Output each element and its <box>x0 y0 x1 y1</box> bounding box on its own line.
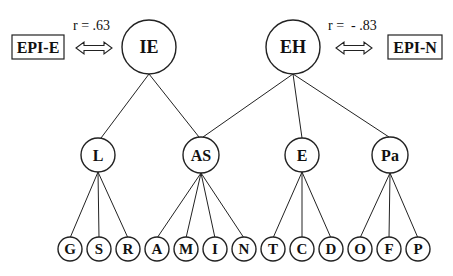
node-S: S <box>87 237 111 261</box>
edges-top-to-mid <box>101 74 389 138</box>
node-E-label: E <box>297 147 308 164</box>
edge-L-G <box>70 172 98 238</box>
correlation-eh-epi-n: r = - .83 <box>328 18 377 33</box>
edge-AS-N <box>201 173 244 238</box>
edge-EH-Pa <box>293 74 389 137</box>
epi-n-label: EPI-N <box>393 39 437 56</box>
edge-IE-AS <box>149 74 199 137</box>
node-R: R <box>116 237 140 261</box>
edge-L-S <box>98 172 99 238</box>
edge-EH-AS <box>203 74 293 137</box>
edge-E-D <box>302 172 331 238</box>
node-T: T <box>261 237 285 261</box>
node-I-label: I <box>212 241 218 257</box>
node-F: F <box>377 237 401 261</box>
double-arrow-icon <box>336 42 372 54</box>
edge-AS-A <box>157 173 201 238</box>
node-EH: EH <box>266 20 320 74</box>
node-A: A <box>145 237 169 261</box>
double-arrow-icon <box>76 42 112 54</box>
node-N: N <box>232 237 256 261</box>
edge-AS-M <box>186 173 201 238</box>
node-AS-label: AS <box>191 147 212 164</box>
edge-E-T <box>273 172 302 238</box>
node-M: M <box>174 237 198 261</box>
epi-e-label: EPI-E <box>17 39 60 56</box>
node-Pa-label: Pa <box>381 147 399 164</box>
node-G: G <box>58 237 82 261</box>
node-L: L <box>81 138 115 172</box>
node-C: C <box>290 237 314 261</box>
edge-EH-E <box>293 74 302 138</box>
node-R-label: R <box>123 241 134 257</box>
node-O: O <box>348 237 372 261</box>
node-O-label: O <box>354 241 366 257</box>
edge-L-R <box>98 172 128 238</box>
node-Pa: Pa <box>372 137 408 173</box>
correlation-ie-epi-e: r = .63 <box>73 18 110 33</box>
node-P: P <box>406 237 430 261</box>
node-L-label: L <box>93 147 104 164</box>
edge-Pa-F <box>389 173 390 238</box>
node-I: I <box>203 237 227 261</box>
edge-IE-L <box>101 74 149 138</box>
node-N-label: N <box>239 241 250 257</box>
node-M-label: M <box>179 241 193 257</box>
edge-Pa-O <box>360 173 390 238</box>
node-C-label: C <box>297 241 308 257</box>
leaf-nodes: G S R A M I N T C D O F P <box>58 237 430 261</box>
node-D: D <box>319 237 343 261</box>
node-D-label: D <box>326 241 337 257</box>
node-T-label: T <box>268 241 278 257</box>
node-A-label: A <box>152 241 163 257</box>
hierarchy-diagram: EPI-E r = .63 EPI-N r = - .83 IE EH L AS… <box>0 0 453 276</box>
external-scale-epi-e: EPI-E r = .63 <box>12 18 112 59</box>
external-scale-epi-n: EPI-N r = - .83 <box>328 18 442 59</box>
edge-Pa-P <box>390 173 418 238</box>
node-IE-label: IE <box>139 37 158 57</box>
node-F-label: F <box>384 241 393 257</box>
edges-mid-to-leaf <box>70 172 418 238</box>
node-G-label: G <box>64 241 76 257</box>
node-AS: AS <box>183 137 219 173</box>
node-S-label: S <box>95 241 103 257</box>
node-P-label: P <box>413 241 422 257</box>
node-IE: IE <box>122 20 176 74</box>
node-EH-label: EH <box>280 37 306 57</box>
node-E: E <box>285 138 319 172</box>
